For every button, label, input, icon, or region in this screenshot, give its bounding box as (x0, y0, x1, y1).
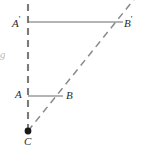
clipped-edge-glyph: g (0, 49, 5, 62)
label-a: A (15, 89, 22, 100)
point-c-marker (25, 128, 32, 135)
label-a-prime: A' (12, 15, 20, 29)
label-b-prime: B' (124, 15, 132, 29)
label-b: B (66, 90, 73, 101)
geometry-figure: A' B' A B C g (0, 0, 150, 168)
label-c: C (24, 136, 31, 147)
